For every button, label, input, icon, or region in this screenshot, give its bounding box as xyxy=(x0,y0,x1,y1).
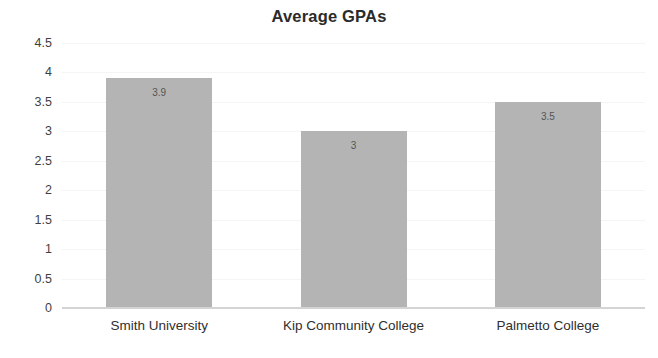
gridline xyxy=(62,72,645,73)
bar[interactable]: 3.5 xyxy=(495,102,601,308)
y-axis-tick-label: 1.5 xyxy=(6,213,52,227)
x-axis-category-label: Palmetto College xyxy=(451,318,645,333)
bar-value-label: 3 xyxy=(301,140,407,151)
chart-title: Average GPAs xyxy=(0,7,658,26)
bar-value-label: 3.9 xyxy=(106,87,212,98)
bar-value-label: 3.5 xyxy=(495,111,601,122)
y-axis-tick-label: 3.5 xyxy=(6,95,52,109)
bar-chart: Average GPAs 4.543.532.521.510.50 3.933.… xyxy=(0,0,658,358)
y-axis-tick-label: 0 xyxy=(6,301,52,315)
bar[interactable]: 3.9 xyxy=(106,78,212,308)
y-axis-tick-label: 2.5 xyxy=(6,154,52,168)
y-axis-tick-label: 4 xyxy=(6,65,52,79)
y-axis-tick-label: 4.5 xyxy=(6,36,52,50)
y-axis-tick-label: 0.5 xyxy=(6,272,52,286)
y-axis-tick-label: 2 xyxy=(6,183,52,197)
y-axis-tick-label: 1 xyxy=(6,242,52,256)
y-axis: 4.543.532.521.510.50 xyxy=(0,43,52,308)
bar[interactable]: 3 xyxy=(301,131,407,308)
gridline xyxy=(62,43,645,44)
x-axis-category-label: Kip Community College xyxy=(256,318,450,333)
x-axis-category-label: Smith University xyxy=(62,318,256,333)
plot-area: 3.933.5 xyxy=(62,43,645,308)
x-axis-line xyxy=(62,307,645,309)
y-axis-tick-label: 3 xyxy=(6,124,52,138)
